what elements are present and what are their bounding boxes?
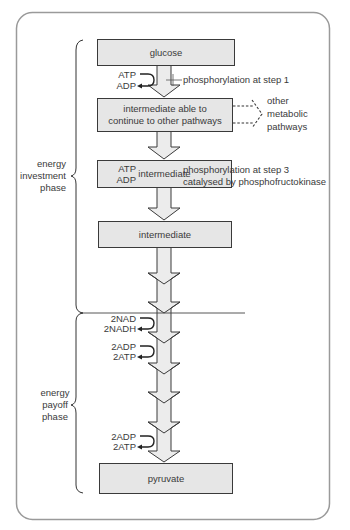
other-pathways-line2: metabolic: [267, 108, 308, 120]
glucose-label: glucose: [150, 47, 183, 59]
intermediate-box-1: intermediate able to continue to other p…: [97, 98, 233, 132]
nad-out-label: 2NADH: [80, 323, 136, 335]
investment-phase-line1: energy: [10, 158, 66, 170]
payoff-phase-line1: energy: [32, 387, 78, 399]
dashed-arrows: [233, 100, 262, 128]
pyruvate-label: pyruvate: [148, 473, 184, 485]
investment-phase-line2: investment: [10, 170, 66, 182]
diagram-graphics: [0, 0, 350, 530]
arrow-3: [148, 187, 180, 220]
step1-out-label: ADP: [100, 80, 136, 92]
intermediate-box-3: intermediate: [98, 221, 232, 248]
intermediate-1-label: intermediate able to continue to other p…: [106, 103, 224, 127]
other-pathways-line3: pathways: [267, 121, 307, 133]
arrow-2: [148, 131, 180, 159]
step3-note-line1: phosphorylation at step 3: [183, 164, 289, 176]
adp2-out-label: 2ATP: [80, 441, 136, 453]
step1-note: phosphorylation at step 1: [183, 74, 289, 86]
intermediate-3-label: intermediate: [139, 229, 191, 241]
investment-phase-line3: phase: [10, 182, 66, 194]
adp1-out-label: 2ATP: [80, 351, 136, 363]
pyruvate-box: pyruvate: [99, 463, 233, 494]
step3-out-label: ADP: [100, 174, 136, 186]
glucose-box: glucose: [97, 39, 235, 66]
other-pathways-line1: other: [267, 95, 289, 107]
arrow-1: [148, 65, 180, 97]
payoff-phase-line3: phase: [32, 411, 78, 423]
step3-note-line2: catalysed by phosphofructokinase: [183, 176, 326, 188]
payoff-phase-line2: payoff: [32, 399, 78, 411]
investment-brace: [71, 40, 83, 313]
side-arrowheads: [137, 84, 142, 450]
